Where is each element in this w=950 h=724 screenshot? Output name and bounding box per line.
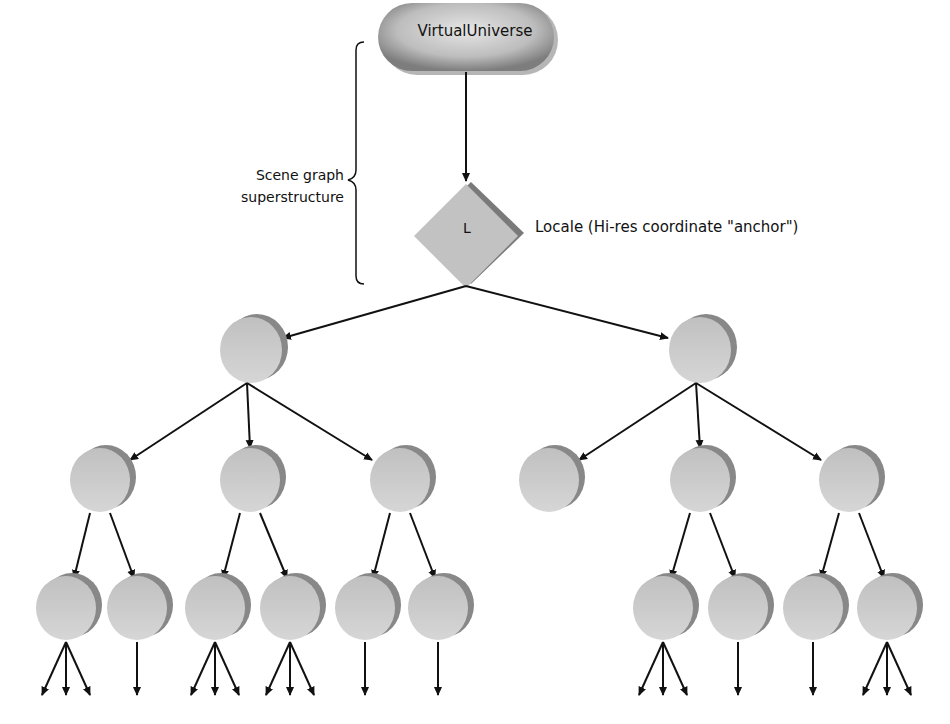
leaf-arrow <box>863 642 887 695</box>
group-node-level2 <box>370 445 436 512</box>
superstructure-label-line1: Scene graph <box>256 167 344 183</box>
arrow-level1-to-level2 <box>579 383 696 460</box>
arrow-level2-to-level3 <box>821 513 839 578</box>
arrow-level2-to-level3 <box>410 513 435 578</box>
leaf-node-level3 <box>335 573 401 640</box>
superstructure-label: Scene graph superstructure <box>228 164 344 208</box>
leaf-node-level3 <box>408 573 474 640</box>
leaf-arrow <box>266 642 290 695</box>
leaf-arrow <box>42 642 66 695</box>
group-node-level2 <box>220 445 286 512</box>
arrow-level2-to-level3 <box>710 513 735 578</box>
arrow-locale-to-group-1 <box>283 286 466 338</box>
arrow-level2-to-level3 <box>110 513 134 578</box>
leaf-arrow <box>663 642 687 695</box>
leaf-arrow <box>887 642 911 695</box>
leaf-arrow <box>66 642 90 695</box>
arrow-locale-to-group-2 <box>466 286 668 338</box>
leaf-arrow <box>639 642 663 695</box>
group-node-level2 <box>70 445 136 512</box>
group-node-level2 <box>819 445 885 512</box>
locale-letter: L <box>452 220 482 236</box>
leaf-node-level3 <box>36 573 102 640</box>
leaf-node-level3 <box>783 573 849 640</box>
superstructure-bracket <box>348 42 364 284</box>
leaf-arrow <box>215 642 239 695</box>
scene-graph-diagram <box>0 0 950 724</box>
arrow-level2-to-level3 <box>223 513 240 578</box>
arrow-level2-to-level3 <box>859 513 884 578</box>
group-node-level2 <box>519 445 585 512</box>
leaf-node-level3 <box>107 573 173 640</box>
leaf-node-level3 <box>260 573 326 640</box>
group-node-level1 <box>669 314 737 383</box>
scene-graph-tree <box>36 286 923 695</box>
virtual-universe-label: VirtualUniverse <box>395 22 555 40</box>
arrow-level2-to-level3 <box>74 513 90 578</box>
leaf-node-level3 <box>633 573 699 640</box>
arrow-level2-to-level3 <box>260 513 287 578</box>
arrow-level1-to-level2 <box>130 383 247 460</box>
arrow-level2-to-level3 <box>671 513 690 578</box>
arrow-level2-to-level3 <box>373 513 390 578</box>
leaf-arrow <box>290 642 314 695</box>
arrow-level1-to-level2 <box>696 383 700 448</box>
group-node-level1 <box>220 314 288 383</box>
locale-description: Locale (Hi-res coordinate "anchor") <box>535 218 798 236</box>
group-node-level2 <box>670 445 736 512</box>
leaf-node-level3 <box>708 573 774 640</box>
leaf-arrow <box>191 642 215 695</box>
leaf-node-level3 <box>857 573 923 640</box>
arrow-level1-to-level2 <box>247 383 250 448</box>
leaf-node-level3 <box>185 573 251 640</box>
superstructure-label-line2: superstructure <box>241 189 344 205</box>
